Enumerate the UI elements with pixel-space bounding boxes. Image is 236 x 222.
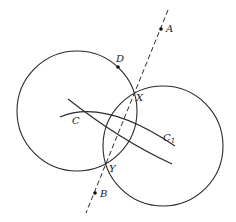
label-C1-subscript: 1: [171, 137, 175, 145]
line-AB: [86, 10, 168, 213]
label-C1: C1: [163, 132, 175, 145]
arc-through-C-lower: [68, 99, 172, 164]
label-X: X: [135, 92, 144, 103]
label-B: B: [99, 188, 107, 199]
label-A: A: [165, 23, 173, 34]
point-A: [159, 27, 163, 31]
label-Y: Y: [109, 163, 117, 174]
right-circle: [103, 86, 223, 206]
geometry-diagram: A D X C C1 Y B: [0, 0, 236, 222]
label-D: D: [115, 53, 124, 64]
left-circle: [17, 51, 137, 171]
label-C: C: [72, 115, 80, 126]
point-D: [116, 65, 120, 69]
point-B: [93, 191, 97, 195]
